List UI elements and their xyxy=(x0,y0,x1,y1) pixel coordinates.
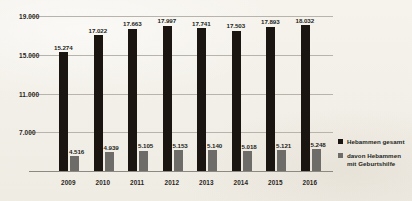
bar-value-obstetrics: 4.939 xyxy=(104,144,119,151)
x-axis-tick-label: 2010 xyxy=(96,179,111,186)
bar-obstetrics xyxy=(174,150,183,171)
bar-value-total: 18.032 xyxy=(296,17,315,24)
bar-obstetrics xyxy=(312,149,321,171)
x-axis-tick-label: 2011 xyxy=(130,179,144,186)
bar-total xyxy=(128,29,137,171)
bar-group: 18.0325.248 xyxy=(301,16,336,171)
legend-label-obstetrics: davon Hebammenmit Geburtshilfe xyxy=(347,152,401,168)
x-axis-tick-label: 2013 xyxy=(199,179,214,186)
bar-total xyxy=(163,26,172,171)
midwives-bar-chart: 7.00011.00015.00019.000 15.2744.51617.02… xyxy=(0,0,412,201)
x-axis-tick-label: 2015 xyxy=(268,179,283,186)
bar-value-total: 17.663 xyxy=(123,20,142,27)
bar-value-total: 17.741 xyxy=(192,20,211,27)
bar-obstetrics xyxy=(105,152,114,171)
bar-obstetrics xyxy=(208,150,217,171)
x-axis-tick-label: 2012 xyxy=(165,179,180,186)
bar-value-obstetrics: 5.018 xyxy=(242,143,257,150)
bars-layer: 15.2744.51617.0224.93917.6635.10517.9975… xyxy=(57,16,333,171)
bar-obstetrics xyxy=(139,151,148,171)
bar-group: 17.0224.939 xyxy=(94,16,129,171)
legend-item-total: Hebammen gesamt xyxy=(338,138,410,146)
bar-group: 17.9975.153 xyxy=(163,16,198,171)
x-axis-tick-label: 2009 xyxy=(61,179,76,186)
bar-total xyxy=(266,27,275,171)
bar-total xyxy=(94,35,103,171)
bar-value-obstetrics: 4.516 xyxy=(69,148,84,155)
bar-obstetrics xyxy=(70,156,79,171)
bar-total xyxy=(59,52,68,171)
bar-obstetrics xyxy=(243,151,252,171)
bar-group: 15.2744.516 xyxy=(59,16,94,171)
chart-legend: Hebammen gesamt davon Hebammenmit Geburt… xyxy=(338,138,410,175)
y-axis-tick-label: 19.000 xyxy=(19,13,53,20)
bar-value-obstetrics: 5.140 xyxy=(207,142,222,149)
bar-value-total: 17.893 xyxy=(261,18,280,25)
legend-swatch-total-icon xyxy=(338,139,343,144)
x-axis-tick-label: 2014 xyxy=(234,179,249,186)
bar-group: 17.5035.018 xyxy=(232,16,267,171)
legend-label-obstetrics-line1: davon Hebammen xyxy=(347,152,401,159)
bar-value-obstetrics: 5.121 xyxy=(276,142,291,149)
axis-baseline xyxy=(29,171,333,172)
plot-area: 7.00011.00015.00019.000 15.2744.51617.02… xyxy=(57,16,333,171)
bar-total xyxy=(197,28,206,171)
y-axis-tick-label: 15.000 xyxy=(19,51,53,58)
x-axis-tick-label: 2016 xyxy=(303,179,318,186)
bar-value-obstetrics: 5.153 xyxy=(173,142,188,149)
bar-value-obstetrics: 5.105 xyxy=(138,142,153,149)
bar-value-total: 17.503 xyxy=(227,22,246,29)
legend-swatch-obstetrics-icon xyxy=(338,153,343,158)
bar-group: 17.7415.140 xyxy=(197,16,232,171)
bar-value-obstetrics: 5.248 xyxy=(311,141,326,148)
bar-total xyxy=(232,31,241,171)
y-axis-tick-label: 11.000 xyxy=(19,90,53,97)
legend-item-obstetrics: davon Hebammenmit Geburtshilfe xyxy=(338,152,410,168)
y-axis-tick-label: 7.000 xyxy=(19,129,53,136)
bar-value-total: 17.997 xyxy=(158,17,177,24)
bar-obstetrics xyxy=(277,150,286,171)
legend-label-total: Hebammen gesamt xyxy=(347,138,405,146)
bar-group: 17.8935.121 xyxy=(266,16,301,171)
legend-label-obstetrics-line2: mit Geburtshilfe xyxy=(347,160,395,167)
bar-value-total: 17.022 xyxy=(89,27,108,34)
bar-group: 17.6635.105 xyxy=(128,16,163,171)
bar-total xyxy=(301,25,310,171)
bar-value-total: 15.274 xyxy=(54,44,73,51)
